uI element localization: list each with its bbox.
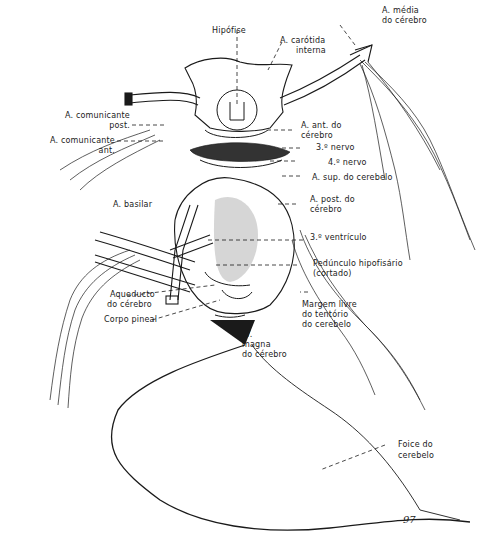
label-carotida-interna-line1: A. carótida bbox=[280, 36, 325, 46]
label-3-nervo: 3.º nervo bbox=[316, 143, 355, 153]
label-hipofise: Hipófise bbox=[212, 26, 246, 36]
label-v-magna-line3: do cérebro bbox=[242, 350, 287, 360]
midbrain-region bbox=[190, 143, 290, 168]
label-aqueducto-line2: do cérebro bbox=[107, 300, 152, 310]
label-ant-cerebro-line1: A. ant. do bbox=[301, 121, 342, 131]
label-basilar: A. basilar bbox=[113, 200, 152, 210]
label-margem-line2: do tentório bbox=[302, 310, 348, 320]
label-media-cerebro-line1: A. média bbox=[382, 6, 419, 16]
label-pedunculo-line1: Pedúnculo hipofisário bbox=[313, 259, 403, 269]
label-post-cerebro-line1: A. post. do bbox=[310, 195, 355, 205]
label-ant-cerebro-line2: cérebro bbox=[301, 131, 333, 141]
label-margem-line3: do cerebelo bbox=[302, 320, 351, 330]
page-number: 97 bbox=[403, 514, 416, 525]
label-carotida-interna-line2: interna bbox=[296, 46, 326, 56]
third-ventricle bbox=[175, 178, 295, 314]
hypophysis-plate bbox=[185, 58, 292, 137]
label-v-magna-line2: magna bbox=[242, 340, 271, 350]
label-corpo-pineal: Corpo pineal bbox=[104, 315, 157, 325]
internal-carotid-arteries bbox=[125, 45, 372, 105]
label-foice-line2: cerebelo bbox=[398, 451, 434, 461]
label-v-magna-line1: V. bbox=[245, 330, 252, 340]
label-margem-line1: Margem livre bbox=[302, 300, 357, 310]
label-post-cerebro-line2: cérebro bbox=[310, 205, 342, 215]
label-comunicante-ant-line2: ant. bbox=[25, 146, 115, 156]
label-aqueducto-line1: Aqueducto bbox=[110, 290, 155, 300]
label-sup-cerebelo: A. sup. do cerebelo bbox=[312, 173, 393, 183]
label-3-ventriculo: 3.º ventrículo bbox=[310, 233, 367, 243]
label-foice-line1: Foice do bbox=[398, 440, 433, 450]
label-4-nervo: 4.º nervo bbox=[328, 158, 367, 168]
label-comunicante-post-line2: post. bbox=[40, 121, 130, 131]
label-comunicante-ant-line1: A. comunicante bbox=[25, 136, 115, 146]
label-pedunculo-line2: (cortado) bbox=[313, 269, 352, 279]
falx-outline bbox=[111, 345, 470, 530]
label-media-cerebro-line2: do cérebro bbox=[382, 16, 427, 26]
label-comunicante-post-line1: A. comunicante bbox=[40, 111, 130, 121]
